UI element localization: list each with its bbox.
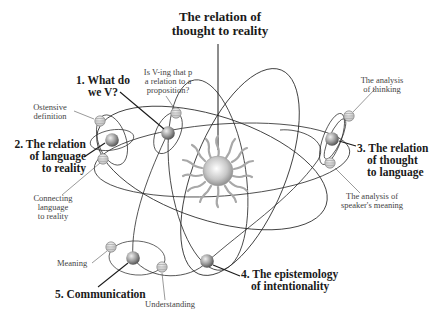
moon-icon [157,262,167,272]
planet-2-label: 2. The relation of language to reality [14,138,86,174]
planet-4-icon [200,254,214,268]
planet-4-label: 4. The epistemology of intentionality [241,268,341,292]
moon-label-meaning: Meaning [57,259,97,268]
moon-label-analysis-thinking: The analysis of thinking [352,76,412,94]
planet-3-icon [325,132,339,146]
moon-label-ostensive-definition: Ostensive definition [28,103,72,121]
moon-icon [95,116,105,126]
orbit-lower [133,130,321,276]
moon-icon [344,111,354,121]
planet-5-label: 5. Communication [55,288,145,300]
planet-5-icon [126,251,140,265]
moon-label-proposition: Is V-ing that p a relation to a proposit… [136,68,200,95]
moon-icon [325,158,335,168]
moon-label-connecting-language: Connecting language to reality [28,194,78,221]
planet-2-icon [105,133,119,147]
page-title: The relation of thought to reality [150,10,290,37]
moon-icon [98,154,108,164]
planets [105,126,339,268]
planet-1-label: 1. What do we V? [72,74,134,98]
sun-icon [203,156,233,186]
moon-label-understanding: Understanding [145,300,207,309]
planet-3-label: 3. The relation of thought to language [357,142,437,178]
title-line-2: thought to reality [150,24,290,38]
moon-icon [106,242,116,252]
moon-icon [171,108,181,118]
moon-label-speakers-meaning: The analysis of speaker's meaning [334,192,410,210]
title-line-1: The relation of [150,10,290,24]
